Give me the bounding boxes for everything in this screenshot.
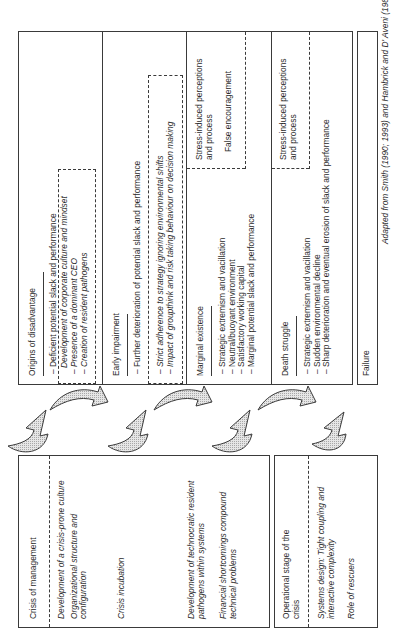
stage-origins-of-disadvantage: Origins of disadvantage Deficient potent… xyxy=(19,32,102,384)
operational-group-1: Systems design: Tight coupling and inter… xyxy=(317,487,336,619)
stage-title: Origins of disadvantage xyxy=(28,288,38,376)
crisis-group-3: Development of technocratic resident pat… xyxy=(187,481,206,619)
failure-label: Failure xyxy=(362,350,372,376)
stage-marginal-existence: Marginal existence Strategic extremism a… xyxy=(186,32,271,384)
source-footnote: Adapted from Smith (1990; 1993) and Hamb… xyxy=(381,0,391,244)
stage-item: Creation of resident pathogens xyxy=(80,252,90,374)
title-underline xyxy=(296,316,297,376)
crisis-of-management-box: Crisis of management Development of a cr… xyxy=(18,455,270,628)
curved-arrow-icon xyxy=(212,410,252,452)
title-underline xyxy=(211,306,212,376)
crisis-of-management-title: Crisis of management xyxy=(29,538,39,619)
stage-title: Death struggle xyxy=(281,322,291,376)
stage-early-impairment: Early impairment Further deterioration o… xyxy=(102,32,186,384)
failure-box: Failure xyxy=(357,31,378,385)
curved-arrow-icon xyxy=(8,410,48,452)
rotated-diagram-page: Crisis of management Development of a cr… xyxy=(0,0,395,642)
operational-stage-title: Operational stage of the crisis xyxy=(282,530,301,619)
stage-item: Sharp deterioration and eventual erosion… xyxy=(322,119,332,374)
stages-box: Origins of disadvantage Deficient potent… xyxy=(18,31,353,385)
operational-group-2: Role of rescuers xyxy=(347,558,357,619)
stage-title: Marginal existence xyxy=(196,306,206,376)
dashed-divider xyxy=(272,168,309,169)
curved-arrow-icon xyxy=(154,386,212,410)
dashed-separator xyxy=(308,456,309,627)
dashed-separator xyxy=(49,456,50,627)
dashed-divider xyxy=(309,32,310,169)
curved-arrow-icon xyxy=(50,386,108,410)
curved-arrow-icon xyxy=(108,410,148,452)
stage-death-struggle: Death struggle Strategic extremism and v… xyxy=(271,32,354,384)
stage-title: Early impairment xyxy=(112,313,122,376)
stage-item: Marginal potential slack and performance xyxy=(247,214,257,374)
stage-item: Impact of groupthink and risk taking beh… xyxy=(166,122,176,374)
curved-arrow-icon xyxy=(258,386,316,410)
side-note: Stress-induced perceptions and process xyxy=(279,59,298,161)
stage-item: Further deterioration of potential slack… xyxy=(133,161,143,374)
operational-stage-box: Operational stage of the crisis Systems … xyxy=(274,455,378,628)
crisis-group-2: Crisis incubation xyxy=(117,558,127,619)
dashed-divider xyxy=(245,32,246,169)
title-underline xyxy=(43,272,44,376)
dashed-divider xyxy=(187,168,245,169)
crisis-group-4: Financial shortcomings compound technica… xyxy=(219,492,238,619)
title-underline xyxy=(127,314,128,376)
side-note: Stress-induced perceptions and process F… xyxy=(195,59,234,161)
crisis-group-1: Development of a crisis-prone culture Or… xyxy=(57,480,89,619)
curved-arrow-icon xyxy=(312,412,346,450)
